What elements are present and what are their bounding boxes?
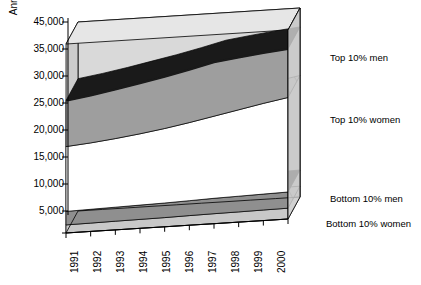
chart-right-wall: [288, 8, 300, 219]
annual-earnings-3d-area-chart: Annual earnings (£) 45,000 35,000 30,000…: [0, 0, 421, 285]
plot-area: [0, 0, 421, 285]
